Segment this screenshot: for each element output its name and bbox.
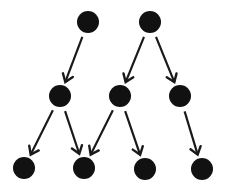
edge-arrow xyxy=(65,111,82,154)
edge-line xyxy=(65,37,82,82)
edge-arrow xyxy=(89,110,113,154)
graph-node-n1 xyxy=(77,11,99,33)
graph-node-n6 xyxy=(13,157,35,179)
graph-node-n7 xyxy=(73,157,95,179)
edge-arrow xyxy=(29,110,53,154)
edge-line xyxy=(185,111,198,154)
edge-arrow xyxy=(156,37,177,82)
edge-line xyxy=(125,111,140,155)
graph-node-n8 xyxy=(134,158,156,180)
edge-line xyxy=(91,110,113,154)
graph-node-n4 xyxy=(109,85,131,107)
graph-node-n5 xyxy=(169,85,191,107)
edge-line xyxy=(31,110,53,154)
edge-line xyxy=(126,37,144,82)
graph-node-n2 xyxy=(139,11,161,33)
nodes-group xyxy=(13,11,213,180)
graph-node-n3 xyxy=(49,85,71,107)
directed-graph xyxy=(0,0,227,195)
edge-arrow xyxy=(63,37,82,82)
edge-arrow xyxy=(123,37,144,82)
edge-line xyxy=(156,37,174,82)
edge-arrow xyxy=(185,111,201,154)
edge-arrow xyxy=(125,111,143,155)
graph-node-n9 xyxy=(191,158,213,180)
